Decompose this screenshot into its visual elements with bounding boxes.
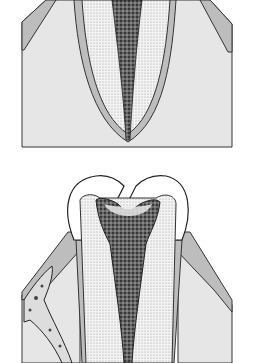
tooth-diagram — [0, 0, 256, 363]
top-panel — [22, 0, 232, 147]
bottom-panel — [22, 176, 232, 363]
